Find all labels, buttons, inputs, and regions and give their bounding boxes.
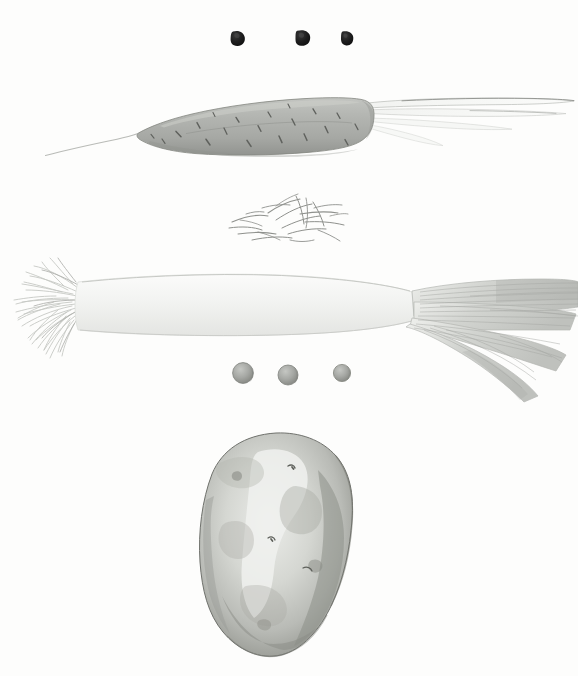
illustration-plate: Vegetable Specimen Plate <box>0 0 578 676</box>
specimen-potato <box>0 0 578 676</box>
potato-eye-2-dot <box>271 539 273 541</box>
potato-eye-1-dot <box>292 467 294 469</box>
potato-speckle-1 <box>232 471 242 481</box>
